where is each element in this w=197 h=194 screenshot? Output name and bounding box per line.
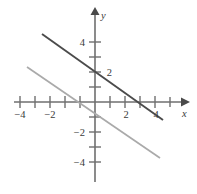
y-tick-label-2: 2: [107, 67, 112, 78]
x-tick-label-2: 2: [123, 109, 128, 120]
x-axis-arrow-icon: [181, 98, 190, 107]
y-axis-label: y: [100, 10, 106, 21]
y-tick-label-neg2: −2: [74, 127, 85, 138]
y-tick-label-4: 4: [80, 37, 86, 48]
x-tick-label-4: 4: [153, 109, 159, 120]
series-line-dark: [42, 34, 163, 120]
x-tick-label-neg4: −4: [14, 109, 26, 120]
x-tick-label-neg2: −2: [44, 109, 55, 120]
coordinate-plane-svg: −4 −2 2 4 4 2 −2 −4 y x: [0, 0, 197, 194]
x-axis-label: x: [181, 108, 187, 119]
y-tick-label-neg4: −4: [74, 157, 86, 168]
graph-figure: −4 −2 2 4 4 2 −2 −4 y x: [0, 0, 197, 194]
y-axis-arrow-icon: [91, 7, 100, 15]
